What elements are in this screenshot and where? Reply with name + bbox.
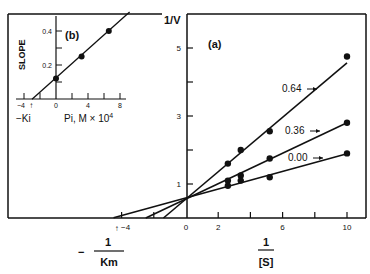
main-x-axis-title-denominator: [S] <box>259 256 274 268</box>
inset-x-tick-label: −4 <box>17 102 25 109</box>
inset-neg-ki-arrow: ↑ <box>29 101 33 110</box>
series-label: 0.00 <box>288 152 308 163</box>
series-label: 0.64 <box>282 83 302 94</box>
main-x-tick-label: 0 <box>184 223 189 232</box>
inset-y-tick-label: 0.4 <box>42 28 52 35</box>
main-ticks <box>122 48 347 218</box>
inset-x-tick-label: 0 <box>54 102 58 109</box>
main-y-tick-label: 1 <box>177 180 182 189</box>
series-label: 0.36 <box>285 125 305 136</box>
data-point <box>344 53 350 59</box>
main-x-axis-title-numerator: 1 <box>263 236 269 248</box>
inset-data-point <box>106 28 112 34</box>
series-label-arrowhead <box>316 129 320 133</box>
main-y-tick-label: 3 <box>177 112 182 121</box>
inset-panel-label: (b) <box>65 29 79 41</box>
main-points <box>225 53 351 189</box>
data-point <box>238 177 244 183</box>
data-point <box>344 150 350 156</box>
data-point <box>267 174 273 180</box>
figure: −402610135↑0.640.360.00 1/V (a) 1 [S] − … <box>0 0 370 274</box>
inset-data-point <box>53 76 59 82</box>
inset-x-axis-title-exp: 4 <box>109 112 113 119</box>
main-y-tick-label: 5 <box>177 44 182 53</box>
neg-km-denominator: Km <box>100 256 118 268</box>
data-point <box>267 128 273 134</box>
main-y-axis-title: 1/V <box>164 14 181 26</box>
data-point <box>225 160 231 166</box>
main-panel-label: (a) <box>208 38 222 50</box>
inset-neg-ki-label: −Ki <box>16 113 31 124</box>
data-point <box>225 183 231 189</box>
main-x-tick-label: 2 <box>216 223 221 232</box>
main-x-tick-label: −4 <box>121 223 131 232</box>
inset-ticks <box>24 31 120 99</box>
neg-km-sign: − <box>78 246 84 258</box>
data-point <box>267 155 273 161</box>
inset-y-axis-title: SLOPE <box>17 39 27 70</box>
main-x-tick-label: 10 <box>343 223 352 232</box>
data-point <box>238 147 244 153</box>
inset-x-axis-title-base: Pi, M × 10 <box>64 113 110 124</box>
neg-km-numerator: 1 <box>105 236 111 248</box>
main-tick-labels: −402610135↑0.640.360.00 <box>115 44 352 233</box>
inset-data-point <box>79 54 85 60</box>
series-label-arrowhead <box>319 156 323 160</box>
fit-line-0-36 <box>146 123 347 218</box>
inset-x-tick-label: 4 <box>86 102 90 109</box>
main-neg-km-arrow: ↑ <box>115 224 119 233</box>
data-point <box>344 120 350 126</box>
main-fit-lines <box>114 63 347 218</box>
main-x-tick-label: 6 <box>280 223 285 232</box>
inset-x-axis-title: Pi, M × 104 <box>64 112 113 124</box>
fit-line-0-64 <box>163 63 347 218</box>
inset-x-tick-label: 8 <box>118 102 122 109</box>
inset-y-tick-label: 0.2 <box>42 62 52 69</box>
